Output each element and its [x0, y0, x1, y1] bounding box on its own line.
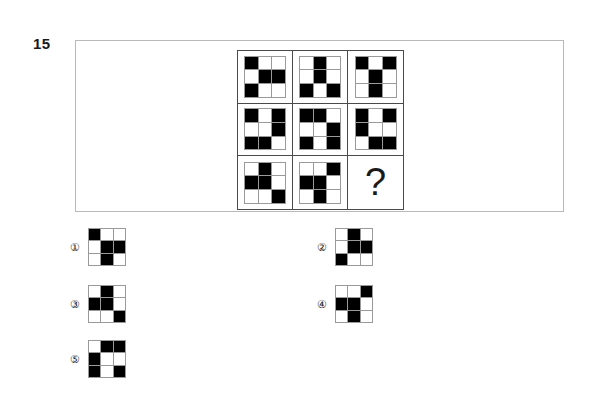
tile-square-5-empty — [114, 298, 125, 309]
tile-square-7-filled — [369, 84, 382, 97]
pattern-tile-r3c1 — [244, 162, 286, 204]
tile-square-8-filled — [272, 190, 285, 203]
tile-square-5-empty — [272, 176, 285, 189]
tile-square-1-empty — [369, 109, 382, 122]
matrix-cell-r3c3: ? — [348, 156, 403, 209]
question-mark: ? — [365, 163, 386, 201]
matrix-grid: ? — [237, 50, 404, 210]
option-label-5: ⑤ — [70, 353, 88, 366]
tile-square-3-filled — [356, 123, 369, 136]
tile-square-8-empty — [361, 311, 372, 322]
option-label-3: ③ — [70, 298, 88, 311]
tile-square-3-filled — [89, 353, 100, 364]
tile-square-8-filled — [327, 84, 340, 97]
tile-square-2-filled — [327, 163, 340, 176]
tile-square-4-filled — [101, 298, 112, 309]
tile-square-8-empty — [114, 254, 125, 265]
tile-square-7-empty — [101, 311, 112, 322]
matrix-cell-r1c1 — [238, 51, 293, 104]
tile-square-0-empty — [89, 286, 100, 297]
tile-square-5-filled — [114, 241, 125, 252]
tile-square-1-empty — [369, 57, 382, 70]
tile-square-4-empty — [369, 123, 382, 136]
tile-square-6-empty — [356, 84, 369, 97]
tile-square-1-filled — [101, 286, 112, 297]
tile-square-6-filled — [300, 137, 313, 150]
tile-square-7-empty — [314, 137, 327, 150]
option-label-4: ④ — [317, 298, 335, 311]
pattern-tile-option-5 — [88, 340, 126, 378]
pattern-tile-r3c2 — [299, 162, 341, 204]
tile-square-2-filled — [361, 286, 372, 297]
tile-square-4-filled — [259, 176, 272, 189]
answer-option-3[interactable]: ③ — [70, 285, 126, 323]
tile-square-1-filled — [314, 57, 327, 70]
tile-square-8-filled — [114, 366, 125, 377]
tile-square-4-filled — [259, 70, 272, 83]
tile-square-8-filled — [327, 137, 340, 150]
tile-square-1-filled — [348, 229, 359, 240]
tile-square-5-empty — [327, 176, 340, 189]
tile-square-2-filled — [114, 341, 125, 352]
tile-square-2-empty — [114, 286, 125, 297]
tile-square-0-filled — [89, 229, 100, 240]
tile-square-5-empty — [383, 70, 396, 83]
tile-square-5-empty — [361, 298, 372, 309]
tile-square-8-empty — [383, 84, 396, 97]
answer-option-5[interactable]: ⑤ — [70, 340, 126, 378]
tile-square-3-filled — [89, 298, 100, 309]
tile-square-7-empty — [314, 84, 327, 97]
pattern-tile-r1c1 — [244, 56, 286, 98]
tile-square-4-empty — [101, 353, 112, 364]
tile-square-1-empty — [101, 229, 112, 240]
tile-square-0-filled — [245, 109, 258, 122]
tile-square-5-filled — [327, 123, 340, 136]
tile-square-0-empty — [245, 163, 258, 176]
tile-square-4-filled — [348, 298, 359, 309]
tile-square-4-filled — [314, 70, 327, 83]
tile-square-2-empty — [272, 163, 285, 176]
pattern-tile-r2c2 — [299, 108, 341, 150]
answer-option-4[interactable]: ④ — [317, 285, 373, 323]
pattern-tile-r1c3 — [355, 56, 397, 98]
tile-square-3-empty — [245, 123, 258, 136]
matrix-cell-r2c3 — [348, 104, 403, 157]
tile-square-6-empty — [245, 190, 258, 203]
matrix-cell-r3c2 — [293, 156, 348, 209]
pattern-tile-option-2 — [335, 228, 373, 266]
tile-square-4-filled — [101, 241, 112, 252]
matrix-cell-r1c2 — [293, 51, 348, 104]
pattern-tile-option-3 — [88, 285, 126, 323]
matrix-cell-r3c1 — [238, 156, 293, 209]
tile-square-6-filled — [89, 366, 100, 377]
tile-square-5-filled — [361, 241, 372, 252]
question-number: 15 — [33, 35, 50, 52]
tile-square-6-empty — [300, 190, 313, 203]
tile-square-3-filled — [245, 176, 258, 189]
tile-square-4-empty — [259, 123, 272, 136]
tile-square-2-filled — [383, 57, 396, 70]
tile-square-6-filled — [245, 137, 258, 150]
tile-square-4-filled — [314, 176, 327, 189]
pattern-tile-r1c2 — [299, 56, 341, 98]
tile-square-0-filled — [356, 109, 369, 122]
option-label-2: ② — [317, 241, 335, 254]
tile-square-1-empty — [259, 57, 272, 70]
tile-square-7-filled — [314, 190, 327, 203]
tile-square-8-filled — [114, 311, 125, 322]
tile-square-7-empty — [101, 366, 112, 377]
tile-square-3-empty — [300, 70, 313, 83]
tile-square-0-empty — [89, 341, 100, 352]
tile-square-2-filled — [272, 109, 285, 122]
tile-square-6-empty — [89, 254, 100, 265]
tile-square-7-filled — [101, 254, 112, 265]
tile-square-3-empty — [356, 70, 369, 83]
tile-square-8-empty — [327, 190, 340, 203]
tile-square-3-filled — [336, 298, 347, 309]
answer-option-1[interactable]: ① — [70, 228, 126, 266]
tile-square-6-empty — [89, 311, 100, 322]
tile-square-7-filled — [369, 137, 382, 150]
answer-option-2[interactable]: ② — [317, 228, 373, 266]
tile-square-2-empty — [272, 57, 285, 70]
tile-square-6-filled — [300, 84, 313, 97]
